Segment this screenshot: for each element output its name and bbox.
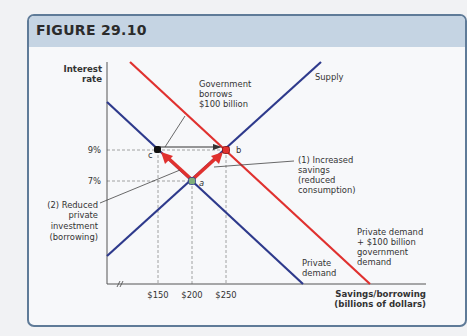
- point-label-b: b: [236, 145, 241, 155]
- x-axis-label-line1: Savings/borrowing: [335, 289, 426, 299]
- increased-savings-arrow: [193, 152, 223, 179]
- y-axis-label-line1: Interest: [63, 64, 102, 74]
- point-a: [189, 178, 196, 185]
- total-demand-label-line3: government: [357, 247, 409, 257]
- point-b: [223, 147, 230, 154]
- x-axis-label-line2: (billions of dollars): [334, 299, 426, 309]
- annotation-investment-line1: (2) Reduced: [47, 200, 98, 210]
- y-axis-label-line2: rate: [82, 74, 102, 84]
- annotation-gov-line3: $100 billion: [199, 99, 248, 109]
- leader-investment: [100, 170, 180, 203]
- annotation-savings-line1: (1) Increased: [298, 155, 353, 165]
- point-label-a: a: [199, 178, 204, 188]
- annotation-gov-line1: Government: [199, 79, 252, 89]
- total-demand-label-line1: Private demand: [357, 227, 423, 237]
- total-demand-label-line2: + $100 billion: [357, 237, 416, 247]
- private-demand-label-line2: demand: [302, 268, 336, 278]
- annotation-investment-line2: private: [68, 210, 98, 220]
- y-tick-7: 7%: [88, 176, 101, 186]
- y-tick-9: 9%: [88, 145, 101, 155]
- reduced-investment-arrow: [161, 152, 191, 179]
- guide-lines: [107, 150, 226, 284]
- x-tick-200: $200: [181, 290, 202, 300]
- annotation-savings-line4: consumption): [298, 185, 356, 195]
- private-demand-curve: [107, 102, 303, 284]
- annotation-savings-line3: (reduced: [298, 175, 335, 185]
- x-tick-250: $250: [215, 290, 236, 300]
- annotation-savings-line2: savings: [298, 165, 330, 175]
- annotation-gov-line2: borrows: [199, 89, 232, 99]
- total-demand-curve: [130, 62, 370, 284]
- annotation-investment-line3: investment: [51, 221, 99, 231]
- leader-gov: [165, 116, 185, 147]
- supply-label: Supply: [315, 72, 344, 82]
- total-demand-label-line4: demand: [357, 257, 391, 267]
- x-tick-150: $150: [147, 290, 168, 300]
- private-demand-label-line1: Private: [302, 258, 331, 268]
- point-c: [154, 146, 161, 153]
- point-label-c: c: [148, 150, 153, 160]
- annotation-investment-line4: (borrowing): [50, 232, 98, 242]
- government-borrowing-arrow: [160, 144, 222, 150]
